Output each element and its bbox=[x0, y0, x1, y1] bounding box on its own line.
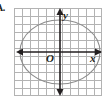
answer-choice-label: A. bbox=[0, 1, 10, 14]
axes bbox=[14, 8, 102, 96]
y-axis-label: y bbox=[63, 10, 68, 21]
origin-label: O bbox=[46, 53, 54, 64]
x-axis-left-arrowhead bbox=[16, 49, 23, 56]
graph-answer-choice-image: A. bbox=[0, 0, 105, 103]
y-axis-down-arrowhead bbox=[57, 89, 64, 96]
x-axis-right-arrowhead bbox=[95, 49, 102, 56]
coordinate-graph: y x O bbox=[14, 8, 102, 96]
x-axis-label: x bbox=[90, 53, 96, 64]
